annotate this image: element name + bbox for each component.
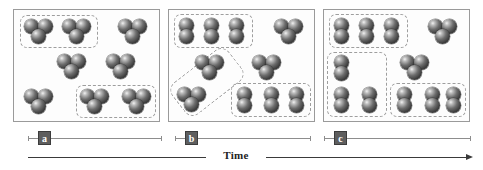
atom-sphere bbox=[31, 29, 46, 44]
molecule bbox=[195, 55, 224, 80]
atom-sphere bbox=[397, 98, 412, 113]
molecule bbox=[397, 87, 412, 113]
atom-sphere bbox=[435, 29, 450, 44]
molecule bbox=[334, 18, 349, 44]
atom-sphere bbox=[113, 64, 128, 79]
molecule bbox=[334, 87, 349, 113]
atom-sphere bbox=[129, 99, 144, 114]
molecule bbox=[362, 87, 377, 113]
molecule bbox=[204, 18, 219, 44]
atom-sphere bbox=[384, 29, 399, 44]
panel-label-c: c bbox=[334, 131, 347, 145]
atom-sphere bbox=[87, 99, 102, 114]
molecule bbox=[106, 54, 135, 79]
atom-sphere bbox=[179, 29, 194, 44]
atom-sphere bbox=[362, 98, 377, 113]
atom-sphere bbox=[237, 98, 252, 113]
panel-label-b: b bbox=[185, 131, 198, 145]
atom-sphere bbox=[31, 99, 46, 114]
panel-label-axis: a b c bbox=[0, 128, 483, 148]
molecule bbox=[57, 54, 86, 79]
atom-sphere bbox=[202, 65, 217, 80]
atom-sphere bbox=[69, 29, 84, 44]
panel-row bbox=[13, 9, 470, 122]
atom-sphere bbox=[184, 97, 199, 112]
molecule bbox=[428, 19, 457, 44]
time-axis: Time bbox=[0, 149, 483, 167]
molecule bbox=[384, 18, 399, 44]
axis-tick bbox=[161, 136, 162, 141]
panel-label-a: a bbox=[38, 131, 51, 145]
molecule bbox=[274, 19, 303, 44]
molecule bbox=[229, 18, 244, 44]
molecule bbox=[289, 87, 304, 113]
molecule bbox=[446, 87, 461, 113]
atom-sphere bbox=[204, 29, 219, 44]
panel-c bbox=[323, 9, 470, 122]
molecule bbox=[264, 87, 279, 113]
panel-b bbox=[168, 9, 315, 122]
molecule bbox=[400, 55, 429, 80]
atom-sphere bbox=[334, 29, 349, 44]
atom-sphere bbox=[289, 98, 304, 113]
axis-tick bbox=[310, 136, 311, 141]
time-axis-line-left bbox=[28, 157, 206, 158]
axis-segment bbox=[28, 138, 38, 139]
molecule bbox=[177, 87, 206, 112]
atom-sphere bbox=[259, 65, 274, 80]
atom-sphere bbox=[334, 66, 349, 81]
panel-a bbox=[13, 9, 160, 122]
atom-sphere bbox=[229, 29, 244, 44]
molecule bbox=[179, 18, 194, 44]
atom-sphere bbox=[446, 98, 461, 113]
molecule bbox=[24, 19, 53, 44]
molecule bbox=[80, 89, 109, 114]
atom-sphere bbox=[64, 64, 79, 79]
axis-tick bbox=[470, 136, 471, 141]
atom-sphere bbox=[334, 98, 349, 113]
molecule bbox=[237, 87, 252, 113]
molecule bbox=[118, 19, 147, 44]
atom-sphere bbox=[281, 29, 296, 44]
time-axis-arrowhead bbox=[466, 154, 473, 160]
atom-sphere bbox=[264, 98, 279, 113]
axis-segment bbox=[324, 138, 334, 139]
time-axis-line-right bbox=[266, 157, 468, 158]
atom-sphere bbox=[359, 29, 374, 44]
axis-segment bbox=[175, 138, 185, 139]
molecule bbox=[24, 89, 53, 114]
molecule bbox=[62, 19, 91, 44]
axis-segment bbox=[198, 138, 310, 139]
atom-sphere bbox=[425, 98, 440, 113]
atom-sphere bbox=[125, 29, 140, 44]
time-axis-label: Time bbox=[206, 149, 266, 161]
molecule bbox=[359, 18, 374, 44]
molecule bbox=[334, 55, 349, 81]
molecule bbox=[122, 89, 151, 114]
molecule bbox=[252, 55, 281, 80]
axis-segment bbox=[51, 138, 161, 139]
axis-segment bbox=[347, 138, 470, 139]
molecular-time-evolution-figure: a b c Time bbox=[0, 0, 483, 170]
molecule bbox=[425, 87, 440, 113]
atom-sphere bbox=[407, 65, 422, 80]
